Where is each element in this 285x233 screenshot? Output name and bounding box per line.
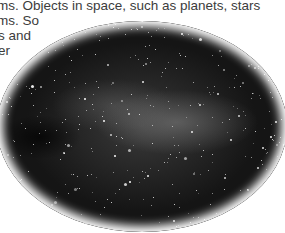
star-dot xyxy=(0,50,1,51)
star-dot xyxy=(227,132,228,133)
star-dot xyxy=(260,98,261,99)
star-dot xyxy=(234,87,235,88)
star-dot xyxy=(240,190,241,191)
star-dot xyxy=(238,115,240,117)
star-dot xyxy=(13,140,14,141)
star-dot xyxy=(25,51,26,52)
star-dot xyxy=(116,145,117,146)
star-dot xyxy=(253,93,254,94)
star-dot xyxy=(82,55,83,56)
star-dot xyxy=(283,84,284,85)
star-dot xyxy=(247,189,248,190)
star-dot xyxy=(255,131,256,132)
star-dot xyxy=(33,34,34,35)
star-dot xyxy=(79,98,80,99)
star-dot xyxy=(212,162,213,163)
star-dot xyxy=(143,199,144,200)
star-dot xyxy=(164,162,165,163)
star-dot xyxy=(265,208,266,209)
star-dot xyxy=(37,52,38,53)
star-dot xyxy=(28,206,29,207)
star-dot xyxy=(264,128,265,129)
star-dot xyxy=(125,34,126,35)
star-dot xyxy=(240,86,241,87)
star-dot xyxy=(17,212,18,213)
star-dot xyxy=(256,59,257,60)
star-dot xyxy=(131,29,132,30)
star-dot xyxy=(167,162,168,163)
star-dot xyxy=(161,76,162,77)
star-dot xyxy=(229,87,230,88)
star-dot xyxy=(178,105,179,106)
star-dot xyxy=(142,171,143,172)
starry-sky-image xyxy=(0,21,285,232)
star-dot xyxy=(14,141,15,142)
star-dot xyxy=(139,182,140,183)
star-dot xyxy=(85,223,86,224)
star-dot xyxy=(21,123,22,124)
star-dot xyxy=(198,103,199,104)
star-dot xyxy=(29,88,30,89)
star-dot xyxy=(200,174,201,175)
star-dot xyxy=(184,157,187,160)
star-dot xyxy=(145,172,146,173)
star-dot xyxy=(168,216,169,217)
star-dot xyxy=(245,115,246,116)
star-dot xyxy=(68,193,69,194)
star-dot xyxy=(26,86,27,87)
star-dot xyxy=(151,36,152,37)
star-dot xyxy=(196,190,197,191)
star-dot xyxy=(46,143,47,144)
star-dot xyxy=(19,196,20,197)
star-dot xyxy=(281,119,282,120)
star-dot xyxy=(74,39,75,40)
star-dot xyxy=(152,143,153,144)
star-dot xyxy=(39,133,40,134)
star-dot xyxy=(254,67,256,69)
star-dot xyxy=(212,193,213,194)
star-dot xyxy=(234,78,235,79)
star-dot xyxy=(3,225,5,227)
star-dot xyxy=(93,109,94,110)
star-dot xyxy=(212,55,213,56)
star-dot xyxy=(233,106,234,107)
star-dot xyxy=(46,108,47,109)
star-dot xyxy=(56,197,57,198)
star-dot xyxy=(147,95,148,96)
star-dot xyxy=(11,106,12,107)
star-dot xyxy=(86,110,87,111)
star-dot xyxy=(170,154,171,155)
star-dot xyxy=(245,31,246,32)
star-dot xyxy=(73,174,74,175)
star-dot xyxy=(153,197,154,198)
star-dot xyxy=(2,114,3,115)
star-dot xyxy=(81,214,82,215)
star-dot xyxy=(276,144,278,146)
star-dot xyxy=(280,171,282,173)
star-dot xyxy=(14,37,15,38)
star-dot xyxy=(252,226,253,227)
star-dot xyxy=(174,145,175,146)
star-dot xyxy=(20,96,21,97)
star-dot xyxy=(62,36,64,38)
star-dot xyxy=(118,28,119,29)
star-dot xyxy=(283,209,285,211)
star-dot xyxy=(95,54,96,55)
star-dot xyxy=(164,37,165,38)
star-dot xyxy=(250,55,251,56)
star-dot xyxy=(191,131,193,133)
star-dot xyxy=(176,226,177,227)
star-dot xyxy=(103,111,104,112)
star-dot xyxy=(212,154,213,155)
star-dot xyxy=(176,68,177,69)
body-text-line-4: er xyxy=(0,43,10,58)
star-dot xyxy=(31,93,32,94)
star-dot xyxy=(172,126,173,127)
star-dot xyxy=(277,92,278,93)
star-dot xyxy=(198,193,199,194)
star-dot xyxy=(279,142,280,143)
star-dot xyxy=(29,57,30,58)
star-dot xyxy=(165,68,166,69)
star-dot xyxy=(48,66,49,67)
star-dot xyxy=(35,89,36,90)
